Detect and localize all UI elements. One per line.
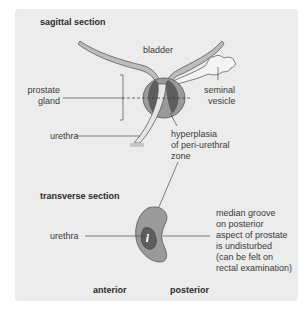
label-groove-6: rectal examination) [216, 263, 292, 273]
label-urethra-sagittal: urethra [50, 131, 79, 141]
prostate-bracket [120, 75, 123, 120]
label-groove-1: median groove [216, 208, 276, 218]
label-groove-4: is undisturbed [216, 241, 272, 251]
label-hyperplasia-2: of peri-urethral [171, 140, 230, 150]
label-groove-5: (can be felt on [216, 252, 273, 262]
prostate-diagram: sagittal section bladder prostate gland … [0, 0, 307, 313]
label-prostate-1: prostate [27, 85, 60, 95]
label-hyperplasia-1: hyperplasia [171, 129, 217, 139]
label-urethra-transverse: urethra [50, 231, 79, 241]
figure-caption [14, 304, 304, 313]
label-groove-2: on posterior [216, 219, 264, 229]
label-hyperplasia-3: zone [171, 151, 191, 161]
transverse-title: transverse section [40, 191, 120, 201]
label-posterior: posterior [170, 285, 210, 295]
label-bladder: bladder [143, 45, 173, 55]
urethra-cut-end [130, 143, 144, 147]
transverse-section: transverse section urethra median groove… [40, 162, 292, 295]
label-seminal-2: vesicle [208, 96, 236, 106]
label-prostate-2: gland [38, 96, 60, 106]
label-groove-3: aspect of prostate [216, 230, 288, 240]
sagittal-title: sagittal section [40, 17, 106, 27]
sagittal-section: sagittal section bladder prostate gland … [27, 17, 235, 161]
label-anterior: anterior [93, 285, 127, 295]
label-seminal-1: seminal [204, 85, 235, 95]
